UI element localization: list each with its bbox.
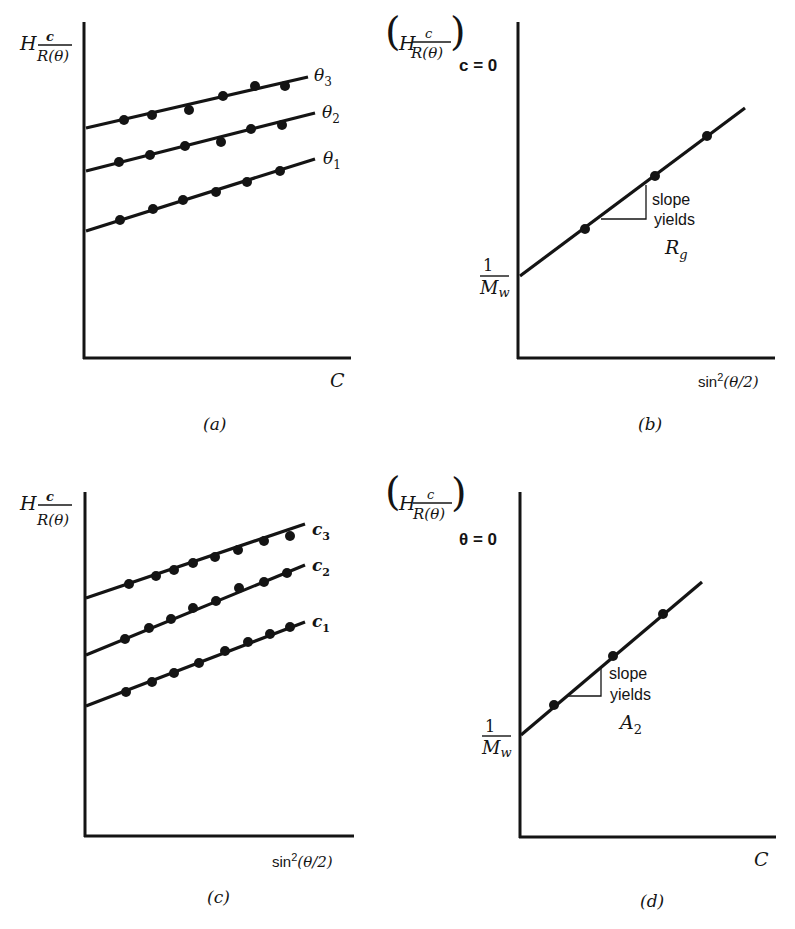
svg-text:H: H bbox=[19, 492, 37, 514]
svg-text:c: c bbox=[425, 26, 433, 41]
series-labels: c3 c2 c1 bbox=[312, 519, 330, 635]
svg-text:Mw: Mw bbox=[479, 277, 510, 300]
svg-text:R(θ): R(θ) bbox=[412, 505, 445, 523]
svg-text:R(θ): R(θ) bbox=[36, 47, 69, 65]
fit-line bbox=[520, 108, 745, 276]
label-c1: c1 bbox=[312, 611, 330, 635]
svg-text:1: 1 bbox=[485, 717, 495, 736]
svg-text:R(θ): R(θ) bbox=[36, 511, 69, 529]
slope-annotation: slope yields Rg bbox=[652, 191, 695, 262]
y-axis-label: H c R(θ) bbox=[19, 489, 72, 529]
svg-text:slope: slope bbox=[652, 191, 690, 208]
label-theta1: θ1 bbox=[323, 148, 341, 172]
series-labels: θ3 θ2 θ1 bbox=[314, 65, 341, 172]
y-axis-label: ( H c R(θ) ) bbox=[385, 8, 466, 62]
svg-text:R(θ): R(θ) bbox=[410, 44, 443, 62]
label-theta2: θ2 bbox=[322, 102, 340, 126]
x-axis-label: C bbox=[754, 848, 769, 870]
svg-text:c: c bbox=[46, 29, 54, 44]
panel-c: c3 c2 c1 H c R(θ) sin2(θ/2) (c) bbox=[19, 489, 354, 907]
label-c3: c3 bbox=[312, 519, 330, 543]
slope-triangle bbox=[601, 185, 646, 219]
x-axis-label: C bbox=[330, 369, 345, 391]
caption-d: (d) bbox=[640, 891, 664, 911]
panel-d: ( H c R(θ) ) θ = 0 1 Mw slope yields A2 … bbox=[385, 468, 776, 911]
x-axis-label: sin2(θ/2) bbox=[272, 851, 333, 871]
panel-a: θ3 θ2 θ1 H c R(θ) C (a) bbox=[19, 22, 351, 434]
x-axis-label: sin2(θ/2) bbox=[698, 371, 759, 391]
svg-text:yields: yields bbox=[610, 686, 651, 703]
panel-b: ( H c R(θ) ) c = 0 1 Mw slope yields Rg … bbox=[385, 8, 775, 434]
svg-text:): ) bbox=[451, 469, 467, 515]
svg-text:A2: A2 bbox=[618, 711, 642, 737]
svg-text:yields: yields bbox=[654, 211, 695, 228]
intercept-label: 1 Mw bbox=[481, 717, 512, 760]
slope-annotation: slope yields A2 bbox=[609, 665, 651, 737]
figure-canvas: θ3 θ2 θ1 H c R(θ) C (a) ( bbox=[0, 0, 795, 929]
y-axis-condition: θ = 0 bbox=[459, 530, 497, 549]
caption-a: (a) bbox=[203, 414, 226, 434]
svg-text:Mw: Mw bbox=[481, 737, 512, 760]
intercept-label: 1 Mw bbox=[479, 256, 510, 300]
svg-text:c: c bbox=[46, 489, 54, 504]
svg-text:1: 1 bbox=[483, 256, 493, 275]
svg-text:slope: slope bbox=[609, 665, 647, 682]
svg-text:c: c bbox=[427, 487, 435, 502]
caption-c: (c) bbox=[207, 887, 230, 907]
svg-text:Rg: Rg bbox=[664, 236, 688, 262]
caption-b: (b) bbox=[638, 414, 662, 434]
y-axis-label: H c R(θ) bbox=[19, 29, 72, 65]
y-axis-label: ( H c R(θ) ) bbox=[385, 468, 467, 523]
svg-text:H: H bbox=[19, 32, 37, 54]
label-c2: c2 bbox=[312, 555, 330, 579]
svg-text:): ) bbox=[450, 8, 466, 54]
label-theta3: θ3 bbox=[314, 65, 332, 89]
y-axis-condition: c = 0 bbox=[459, 56, 497, 75]
